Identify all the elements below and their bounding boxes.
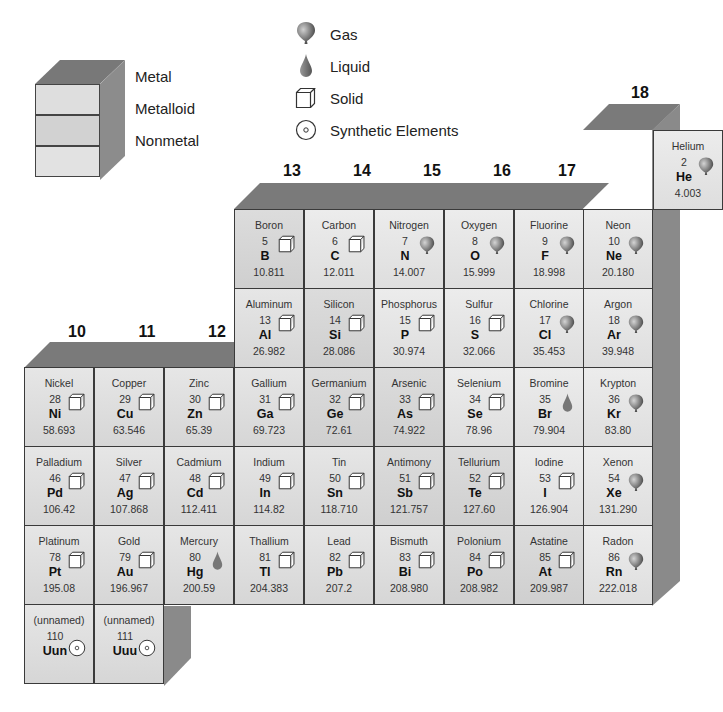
element-cell-s: Sulfur16S32.066 [444,288,514,368]
element-name: Neon [584,219,652,231]
element-name: Iodine [515,456,583,468]
target-icon [138,639,156,657]
element-name: Copper [95,377,163,389]
cube-icon [348,472,366,490]
element-cell-te: Tellurium52Te127.60 [444,446,514,526]
cube-icon [348,314,366,332]
atomic-mass: 208.982 [445,582,513,594]
element-name: Palladium [25,456,93,468]
atomic-mass: 35.453 [515,345,583,357]
atomic-mass: 118.710 [305,503,373,515]
target-icon [294,118,318,142]
element-cell-c: Carbon6C12.011 [304,209,374,289]
cube-icon [278,393,296,411]
cube-icon [278,472,296,490]
element-name: Helium [654,140,722,152]
cube-icon [278,314,296,332]
legend-label-nonmetal: Nonmetal [135,132,199,149]
atomic-mass: 200.59 [165,582,233,594]
bottom-side-face [164,606,191,686]
atomic-mass: 107.868 [95,503,163,515]
atomic-mass: 121.757 [375,503,443,515]
balloon-icon [627,235,645,253]
legend-label-liquid: Liquid [330,58,370,75]
element-name: Lead [305,535,373,547]
element-name: Bismuth [375,535,443,547]
target-icon [68,639,86,657]
group-10: 10 [42,323,112,341]
element-name: Zinc [165,377,233,389]
element-name: Carbon [305,219,373,231]
element-name: Platinum [25,535,93,547]
element-name: Sulfur [445,298,513,310]
element-name: Silver [95,456,163,468]
cube-icon [68,472,86,490]
element-name: Nickel [25,377,93,389]
cube-icon [488,551,506,569]
element-name: Gallium [235,377,303,389]
atomic-mass: 208.980 [375,582,443,594]
legend-label-solid: Solid [330,90,363,107]
group-11: 11 [112,323,182,341]
legend-label-metalloid: Metalloid [135,100,195,117]
atomic-mass: 12.011 [305,266,373,278]
element-name: Polonium [445,535,513,547]
element-name: Phosphorus [375,298,443,310]
element-cell-rn: Radon86Rn222.018 [583,525,653,605]
cube-icon [278,551,296,569]
cube-icon [418,393,436,411]
atomic-mass: 83.80 [584,424,652,436]
cube-icon [138,551,156,569]
legend-swatch-nonmetal [35,146,100,177]
top-face-groups-10-12 [24,342,250,368]
atomic-mass: 106.42 [25,503,93,515]
element-name: Fluorine [515,219,583,231]
cube-icon [558,551,576,569]
element-name: Xenon [584,456,652,468]
element-cell-ni: Nickel28Ni58.693 [24,367,94,447]
cube-icon [348,235,366,253]
atomic-mass: 39.948 [584,345,652,357]
element-cell-ag: Silver47Ag107.868 [94,446,164,526]
cube-icon [348,551,366,569]
element-cell-f: Fluorine9F18.998 [514,209,584,289]
element-cell-br: Bromine35Br79.904 [514,367,584,447]
element-name: Arsenic [375,377,443,389]
legend-label-metal: Metal [135,68,172,85]
element-name: Tellurium [445,456,513,468]
cube-icon [138,472,156,490]
cube-icon [208,393,226,411]
element-cell-as: Arsenic33As74.922 [374,367,444,447]
balloon-icon [697,156,715,174]
element-cell-ar: Argon18Ar39.948 [583,288,653,368]
cube-icon [488,314,506,332]
legend-liquid: Liquid [294,54,370,78]
element-name: Nitrogen [375,219,443,231]
element-name: (unnamed) [95,614,163,626]
atomic-mass: 69.723 [235,424,303,436]
atomic-mass: 79.904 [515,424,583,436]
atomic-mass: 195.08 [25,582,93,594]
element-cell-at: Astatine85At209.987 [514,525,584,605]
element-cell-sn: Tin50Sn118.710 [304,446,374,526]
group-17: 17 [532,162,602,180]
droplet-icon [294,54,318,78]
balloon-icon [418,235,436,253]
element-name: Indium [235,456,303,468]
cube-icon [558,472,576,490]
balloon-icon [627,472,645,490]
cube-icon [348,393,366,411]
element-name: Gold [95,535,163,547]
top-face-groups-13-17 [234,183,609,209]
atomic-mass: 20.180 [584,266,652,278]
group-18: 18 [605,84,675,102]
element-cell-cu: Copper29Cu63.546 [94,367,164,447]
cube-icon [418,314,436,332]
atomic-mass: 14.007 [375,266,443,278]
atomic-mass: 58.693 [25,424,93,436]
element-name: Cadmium [165,456,233,468]
element-name: Selenium [445,377,513,389]
legend-solid: Solid [294,86,363,110]
legend-gas: Gas [294,22,358,46]
atomic-mass: 72.61 [305,424,373,436]
